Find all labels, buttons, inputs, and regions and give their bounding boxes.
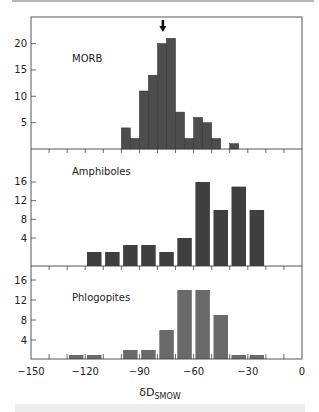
y-tick-label: 10 xyxy=(14,91,27,102)
histogram-bar xyxy=(203,123,212,149)
y-tick-label: 8 xyxy=(21,214,27,225)
panel-label: Amphiboles xyxy=(72,166,131,177)
histogram-bar xyxy=(214,210,229,266)
x-tick-label: −90 xyxy=(129,366,150,377)
histogram-bar xyxy=(176,112,185,149)
histogram-bar xyxy=(123,350,138,359)
histogram-bar xyxy=(232,187,247,266)
x-tick-label: −60 xyxy=(183,366,204,377)
histogram-bar xyxy=(87,355,102,359)
panel-morb: 5101520MORB xyxy=(14,20,238,149)
panel-label: Phlogopites xyxy=(72,292,130,303)
y-tick-label: 16 xyxy=(14,176,27,187)
histogram-bar xyxy=(212,139,221,150)
histogram-bar xyxy=(159,330,174,359)
histogram-bar xyxy=(167,38,176,149)
histogram-bar xyxy=(177,238,192,266)
histogram-bar xyxy=(87,252,102,266)
histogram-bar xyxy=(250,355,265,359)
y-tick-label: 8 xyxy=(21,315,27,326)
histogram-bar xyxy=(148,75,157,149)
y-tick-label: 4 xyxy=(21,335,27,346)
y-tick-label: 12 xyxy=(14,195,27,206)
histogram-bar xyxy=(230,144,239,149)
y-axis: 5101520 xyxy=(14,38,36,128)
y-tick-label: 12 xyxy=(14,295,27,306)
bars xyxy=(121,38,238,149)
histogram-chart: 5101520MORB481216Amphiboles481216Phlogop… xyxy=(0,0,319,412)
histogram-bar xyxy=(195,182,210,266)
histogram-bar xyxy=(195,290,210,359)
panel-label: MORB xyxy=(72,53,102,64)
histogram-bar xyxy=(141,245,156,266)
y-axis: 481216 xyxy=(14,176,36,243)
bottom-caption-band xyxy=(15,404,305,412)
x-tick-label: −150 xyxy=(17,366,44,377)
y-tick-label: 4 xyxy=(21,233,27,244)
histogram-bar xyxy=(214,315,229,359)
histogram-bar xyxy=(130,139,139,150)
panel-amphiboles: 481216Amphiboles xyxy=(14,166,264,266)
histogram-bar xyxy=(185,139,194,150)
y-tick-label: 15 xyxy=(14,64,27,75)
y-tick-label: 5 xyxy=(21,117,27,128)
histogram-bar xyxy=(123,245,138,266)
histogram-bar xyxy=(159,252,174,266)
x-tick-label: 0 xyxy=(299,366,305,377)
y-tick-label: 20 xyxy=(14,38,27,49)
histogram-bar xyxy=(177,290,192,359)
y-tick-label: 16 xyxy=(14,275,27,286)
histogram-bar xyxy=(69,355,84,359)
histogram-bar xyxy=(232,355,247,359)
x-tick-label: −120 xyxy=(71,366,98,377)
histogram-bar xyxy=(250,210,265,266)
panel-phlogopites: 481216Phlogopites xyxy=(14,275,264,360)
y-axis: 481216 xyxy=(14,275,36,346)
x-tick-label: −30 xyxy=(237,366,258,377)
histogram-bar xyxy=(194,117,203,149)
histogram-bar xyxy=(139,91,148,149)
chart-panels: 5101520MORB481216Amphiboles481216Phlogop… xyxy=(14,20,264,359)
bars xyxy=(87,182,264,266)
x-axis-title: δDSMOW xyxy=(139,386,180,401)
arrow-down-icon xyxy=(159,20,166,32)
histogram-bar xyxy=(158,44,167,149)
histogram-bar xyxy=(105,252,120,266)
histogram-bar xyxy=(141,350,156,359)
histogram-bar xyxy=(121,128,130,149)
